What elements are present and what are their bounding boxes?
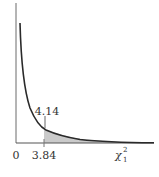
x-tick-zero: 0 <box>13 149 20 162</box>
x-axis-label: χ <box>114 149 123 162</box>
x-tick-critical: 3.84 <box>32 149 57 162</box>
x-axis-label-sup: 2 <box>123 146 127 154</box>
x-axis-label-sub: 1 <box>123 156 127 164</box>
observed-statistic-label: 4.14 <box>35 105 60 118</box>
chi-square-chart: 4.14 0 3.84 χ 2 1 <box>0 0 159 177</box>
density-curve <box>20 23 154 143</box>
